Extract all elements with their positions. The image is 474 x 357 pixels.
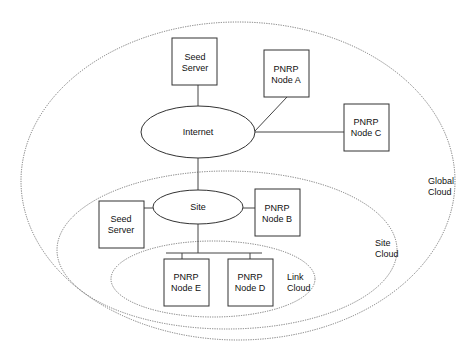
- pnrp-node-b: PNRP Node B: [255, 189, 300, 236]
- site-network: Site: [153, 190, 243, 224]
- node-label-line2: Node D: [235, 283, 266, 293]
- node-label-line1: PNRP: [237, 272, 262, 282]
- pnrp-cloud-diagram: Internet Site Seed Server PNRP Node A PN…: [0, 0, 474, 357]
- pnrp-node-a: PNRP Node A: [264, 50, 309, 97]
- node-label-line1: Seed: [110, 214, 131, 224]
- node-label-line1: PNRP: [264, 203, 289, 213]
- site-cloud-label: Site Cloud: [375, 238, 399, 259]
- link-cloud-label: Link Cloud: [287, 272, 311, 293]
- internet-network: Internet: [141, 106, 255, 158]
- seed-server-global-node: Seed Server: [172, 38, 217, 85]
- node-label-line1: PNRP: [353, 117, 378, 127]
- cloud-label-line2: Cloud: [287, 283, 311, 293]
- cloud-label-line1: Global: [428, 176, 454, 186]
- site-label: Site: [190, 202, 206, 212]
- global-cloud-label: Global Cloud: [428, 176, 454, 197]
- internet-label: Internet: [183, 127, 214, 137]
- seed-server-site-node: Seed Server: [99, 201, 144, 248]
- cloud-label-line1: Site: [375, 238, 391, 248]
- node-label-line1: PNRP: [273, 64, 298, 74]
- pnrp-node-d: PNRP Node D: [228, 259, 273, 306]
- node-label-line2: Server: [182, 63, 209, 73]
- node-label-line2: Server: [108, 225, 135, 235]
- node-label-line2: Node B: [262, 214, 292, 224]
- cloud-label-line2: Cloud: [428, 187, 452, 197]
- node-label-line1: Seed: [184, 52, 205, 62]
- link-cloud-boundary: [111, 241, 315, 317]
- node-label-line2: Node A: [271, 75, 301, 85]
- pnrp-node-e: PNRP Node E: [164, 259, 209, 306]
- cloud-label-line1: Link: [287, 272, 304, 282]
- node-label-line2: Node E: [171, 283, 201, 293]
- cloud-label-line2: Cloud: [375, 249, 399, 259]
- link-internet-node-a: [254, 97, 287, 132]
- node-label-line1: PNRP: [173, 272, 198, 282]
- pnrp-node-c: PNRP Node C: [344, 104, 389, 151]
- node-label-line2: Node C: [351, 128, 382, 138]
